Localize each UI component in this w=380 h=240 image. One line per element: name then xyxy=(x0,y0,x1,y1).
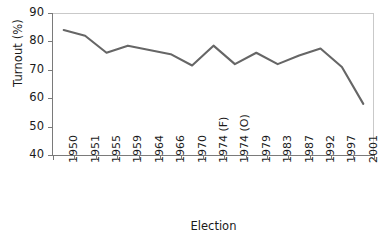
turnout-line-chart: Turnout (%) 405060708090 195019511955195… xyxy=(0,0,380,240)
data-series-line xyxy=(0,0,380,240)
x-axis-label: Election xyxy=(53,219,374,233)
